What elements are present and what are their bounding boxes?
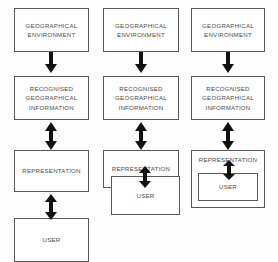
box-label-line: GEOGRAPHICAL bbox=[115, 93, 167, 102]
box-label-line: INFORMATION bbox=[206, 103, 251, 112]
arrow-double-vertical-icon bbox=[44, 122, 58, 150]
arrow-double-vertical-icon bbox=[138, 166, 152, 188]
box-label-line: RECOGNISED bbox=[119, 84, 162, 93]
box-recognised-geographical-information-col1: RECOGNISED GEOGRAPHICAL INFORMATION bbox=[14, 76, 89, 120]
box-label-line: INFORMATION bbox=[119, 103, 164, 112]
arrow-double-vertical-icon bbox=[222, 160, 236, 180]
box-label-line: RECOGNISED bbox=[206, 84, 249, 93]
arrow-double-vertical-icon bbox=[221, 122, 235, 150]
box-representation-col1: REPRESENTATION bbox=[14, 150, 89, 192]
box-label-line: GEOGRAPHICAL bbox=[26, 93, 78, 102]
arrow-double-vertical-icon bbox=[134, 122, 148, 150]
arrow-down-icon bbox=[44, 52, 58, 74]
box-label-line: GEOGRAPHICAL bbox=[202, 93, 254, 102]
box-label-line: ENVIRONMENT bbox=[28, 30, 76, 39]
box-label-line: INFORMATION bbox=[29, 103, 74, 112]
box-label-line: USER bbox=[137, 191, 155, 200]
box-label-line: GEOGRAPHICAL bbox=[115, 21, 167, 30]
box-geographical-environment-col1: GEOGRAPHICAL ENVIRONMENT bbox=[14, 8, 89, 52]
arrow-down-icon bbox=[221, 52, 235, 74]
box-recognised-geographical-information-col2: RECOGNISED GEOGRAPHICAL INFORMATION bbox=[103, 76, 179, 120]
arrow-down-icon bbox=[134, 52, 148, 74]
box-label-line: USER bbox=[43, 235, 61, 244]
box-user-col1: USER bbox=[14, 218, 89, 262]
box-geographical-environment-col3: GEOGRAPHICAL ENVIRONMENT bbox=[191, 8, 265, 52]
box-label-line: RECOGNISED bbox=[30, 84, 73, 93]
box-label-line: USER bbox=[219, 182, 237, 191]
box-label-line: GEOGRAPHICAL bbox=[26, 21, 78, 30]
arrow-double-vertical-icon bbox=[44, 194, 58, 220]
box-label-line: GEOGRAPHICAL bbox=[202, 21, 254, 30]
box-recognised-geographical-information-col3: RECOGNISED GEOGRAPHICAL INFORMATION bbox=[191, 76, 265, 120]
box-label-line: ENVIRONMENT bbox=[117, 30, 165, 39]
box-geographical-environment-col2: GEOGRAPHICAL ENVIRONMENT bbox=[103, 8, 179, 52]
box-label-line: REPRESENTATION bbox=[22, 166, 80, 175]
box-label-line: ENVIRONMENT bbox=[204, 30, 252, 39]
